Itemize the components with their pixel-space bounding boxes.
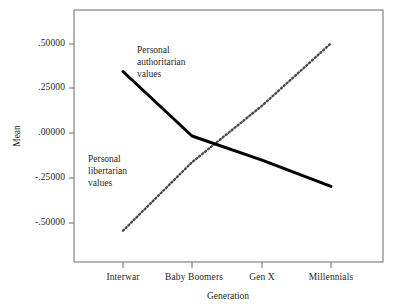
y-tick-label-4: -.50000 (10, 218, 65, 228)
plot-frame (74, 10, 383, 262)
y-tick-label-1: .25000 (10, 83, 65, 93)
x-axis-title: Generation (207, 292, 249, 302)
x-tick-label-millennials: Millennials (309, 273, 353, 283)
y-tick-label-0: .50000 (10, 39, 65, 49)
x-tick-label-interwar: Interwar (107, 273, 140, 283)
annotation-authoritarian-values: Personal authoritarian values (137, 44, 186, 80)
series-line-authoritarian (123, 71, 331, 186)
y-tick-label-3: -.25000 (10, 173, 65, 183)
chart-figure: .50000 .25000 .00000 -.25000 -.50000 Int… (0, 0, 400, 308)
x-tick-label-baby-boomers: Baby Boomers (165, 273, 223, 283)
annotation-libertarian-values: Personal libertarian values (88, 153, 127, 189)
x-tick-label-gen-x: Gen X (249, 273, 275, 283)
y-axis-title: Mean (13, 125, 23, 147)
x-axis-ticks (123, 262, 331, 268)
y-axis-ticks (69, 44, 74, 223)
